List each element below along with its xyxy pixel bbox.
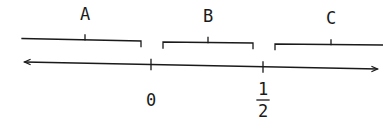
bracket-a-label: A	[80, 4, 90, 24]
fraction-numerator: 1	[258, 79, 268, 99]
tick-label-half: 1 2	[257, 79, 269, 121]
number-line	[25, 60, 378, 73]
fraction-denominator: 2	[258, 101, 268, 121]
bracket-b-label: B	[203, 6, 213, 26]
diagram-svg: A B C 0 1 2	[0, 0, 383, 125]
tick-label-zero: 0	[146, 90, 156, 110]
bracket-b	[163, 38, 253, 49]
bracket-c	[275, 40, 383, 50]
bracket-c-label: C	[326, 8, 336, 28]
bracket-a	[22, 35, 141, 47]
number-line-diagram: A B C 0 1 2	[0, 0, 383, 125]
